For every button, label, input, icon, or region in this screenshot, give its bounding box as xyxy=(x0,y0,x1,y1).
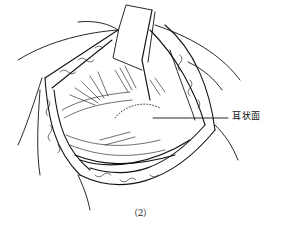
surgical-illustration: 耳状面 （2） xyxy=(0,0,281,229)
figure-caption: （2） xyxy=(0,206,281,219)
auricular-surface-label: 耳状面 xyxy=(232,109,261,122)
